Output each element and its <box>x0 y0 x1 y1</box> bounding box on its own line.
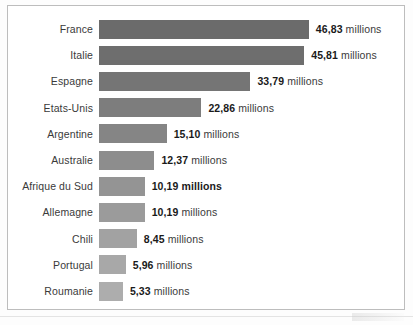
value-label: 22,86 millions <box>208 98 274 118</box>
value-label: 8,45 millions <box>144 229 204 249</box>
bar-container <box>99 281 123 301</box>
bar-container <box>99 124 167 144</box>
value-number: 5,96 <box>133 259 154 271</box>
category-label: Etats-Unis <box>8 98 93 118</box>
value-unit: millions <box>191 154 227 166</box>
category-label: Argentine <box>8 124 93 144</box>
value-unit: millions <box>238 102 274 114</box>
value-label: 33,79 millions <box>257 71 323 91</box>
category-label: Chili <box>8 229 93 249</box>
value-unit: millions <box>157 259 193 271</box>
category-label: France <box>8 19 93 39</box>
bar-row: Portugal5,96 millions <box>8 255 404 275</box>
bar-row: Chili8,45 millions <box>8 229 404 249</box>
value-label: 46,83 millions <box>316 19 382 39</box>
bar-container <box>99 255 126 275</box>
value-label: 5,96 millions <box>133 255 193 275</box>
bar <box>99 151 154 170</box>
category-label: Roumanie <box>8 281 93 301</box>
bar <box>99 124 167 143</box>
value-label: 10,19 millions <box>152 176 222 196</box>
category-label: Australie <box>8 150 93 170</box>
value-number: 45,81 <box>311 49 338 61</box>
bar <box>99 177 145 196</box>
value-unit: millions <box>287 75 323 87</box>
value-number: 46,83 <box>316 23 343 35</box>
scan-artifact-smudge <box>352 313 404 321</box>
value-label: 5,33 millions <box>130 281 190 301</box>
chart-frame: France46,83 millionsItalie45,81 millions… <box>7 5 405 310</box>
category-label: Portugal <box>8 255 93 275</box>
value-number: 33,79 <box>257 75 284 87</box>
value-number: 15,10 <box>174 128 201 140</box>
bar <box>99 72 250 91</box>
value-number: 8,45 <box>144 233 165 245</box>
category-label: Espagne <box>8 71 93 91</box>
bar-row: Italie45,81 millions <box>8 45 404 65</box>
value-label: 45,81 millions <box>311 45 377 65</box>
bar <box>99 20 309 39</box>
bar-row: France46,83 millions <box>8 19 404 39</box>
bar <box>99 46 304 65</box>
bar <box>99 282 123 301</box>
value-number: 5,33 <box>130 285 151 297</box>
bar <box>99 255 126 274</box>
value-unit: millions <box>181 206 217 218</box>
value-number: 10,19 <box>152 206 179 218</box>
bar-row: Roumanie5,33 millions <box>8 281 404 301</box>
bar-container <box>99 71 250 91</box>
value-unit: millions <box>203 128 239 140</box>
value-unit: millions <box>168 233 204 245</box>
bar-row: Allemagne10,19 millions <box>8 202 404 222</box>
bar-row: Australie12,37 millions <box>8 150 404 170</box>
bar <box>99 203 145 222</box>
value-unit: millions <box>154 285 190 297</box>
bar-container <box>99 229 137 249</box>
bar-container <box>99 98 201 118</box>
value-unit: millions <box>346 23 382 35</box>
bar-container <box>99 19 309 39</box>
value-label: 15,10 millions <box>174 124 240 144</box>
category-label: Allemagne <box>8 202 93 222</box>
value-label: 10,19 millions <box>152 202 218 222</box>
category-label: Italie <box>8 45 93 65</box>
bar-container <box>99 45 304 65</box>
bar <box>99 98 201 117</box>
horizontal-bar-chart: France46,83 millionsItalie45,81 millions… <box>8 6 404 309</box>
value-number: 12,37 <box>161 154 188 166</box>
bar <box>99 229 137 248</box>
bar-container <box>99 150 154 170</box>
category-label: Afrique du Sud <box>8 176 93 196</box>
value-number: 10,19 <box>152 180 179 192</box>
value-unit: millions <box>181 180 221 192</box>
bar-row: Afrique du Sud10,19 millions <box>8 176 404 196</box>
bar-row: Espagne33,79 millions <box>8 71 404 91</box>
bar-container <box>99 176 145 196</box>
value-label: 12,37 millions <box>161 150 227 170</box>
value-number: 22,86 <box>208 102 235 114</box>
value-unit: millions <box>341 49 377 61</box>
bar-row: Etats-Unis22,86 millions <box>8 98 404 118</box>
bar-row: Argentine15,10 millions <box>8 124 404 144</box>
bar-container <box>99 202 145 222</box>
